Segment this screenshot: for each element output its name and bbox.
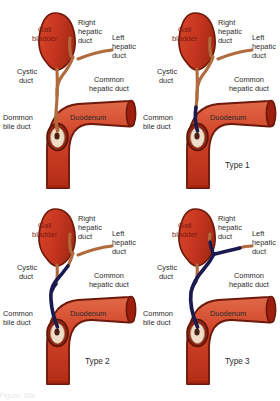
label-common-bile-duct: Commonbile duct [143, 309, 173, 327]
label-left-hepatic-duct: Lefthepaticduct [112, 229, 136, 256]
label-common-bile-duct: Dommonbile duct [3, 113, 33, 131]
duodenum-cut-end [266, 297, 275, 323]
figure-grid: Gallbladder Righthepaticduct Lefthepatic… [0, 0, 280, 401]
label-common-bile-duct: Commonbile duct [3, 309, 33, 327]
label-cystic-duct: Cysticduct [157, 67, 177, 85]
label-common-hepatic-duct: Commonhepatic duct [229, 75, 269, 93]
papilla-orifice [54, 328, 59, 335]
label-duodenum: Duodenum [70, 113, 106, 122]
label-duodenum: Duodenum [70, 309, 106, 318]
papilla-orifice [54, 132, 59, 139]
label-common-hepatic-duct: Commonhepatic duct [89, 75, 129, 93]
panel-type-1: Gallbladder Righthepaticduct Lefthepatic… [140, 0, 280, 196]
label-duodenum: Duodenum [210, 113, 246, 122]
common-bile-duct-tube [56, 112, 57, 131]
left-hepatic-duct-tube [78, 50, 112, 59]
label-left-hepatic-duct: Lefthepaticduct [252, 33, 276, 60]
duodenum-cut-end [126, 297, 135, 323]
label-right-hepatic-duct: Righthepaticduct [78, 18, 102, 45]
duodenum-lower-cut [47, 381, 69, 384]
label-common-bile-duct: Commonbile duct [143, 113, 173, 131]
duodenum-cut-end [266, 101, 275, 127]
label-common-hepatic-duct: Commonhepatic duct [229, 271, 269, 289]
label-left-hepatic-duct: Lefthepaticduct [252, 229, 276, 256]
right-hepatic-duct-tube [210, 38, 211, 56]
label-right-hepatic-duct: Righthepaticduct [218, 214, 242, 241]
papilla-orifice [194, 132, 199, 139]
label-cystic-duct: Cysticduct [17, 67, 37, 85]
left-hepatic-duct-tube [218, 50, 252, 59]
label-cystic-duct: Cysticduct [17, 263, 37, 281]
right-hepatic-duct-tube [70, 38, 71, 56]
label-cystic-duct: Cysticduct [157, 263, 177, 281]
label-type-caption: Type 1 [225, 161, 250, 170]
label-duodenum: Duodenum [210, 309, 246, 318]
label-left-hepatic-duct: Lefthepaticduct [112, 33, 136, 60]
duodenum-cut-end [126, 101, 135, 127]
duodenum-lower-cut [187, 185, 209, 188]
panel-type-3: Gallbladder Righthepaticduct Lefthepatic… [140, 196, 280, 392]
label-type-caption: Type 2 [85, 357, 110, 366]
duodenum-lower-cut [187, 381, 209, 384]
left-hepatic-duct-abnormal [215, 248, 240, 254]
duodenum-lower-cut [47, 185, 69, 188]
papilla-orifice [194, 328, 199, 335]
cystic-duct-abnormal-junction [192, 281, 196, 288]
panel-normal: Gallbladder Righthepaticduct Lefthepatic… [0, 0, 140, 196]
label-type-caption: Type 3 [225, 357, 250, 366]
right-hepatic-duct-tube [70, 234, 71, 252]
panel-type-2: Gallbladder Righthepaticduct Lefthepatic… [0, 196, 140, 392]
figure-bottom-caption: Figure. Bile [0, 392, 280, 401]
label-common-hepatic-duct: Commonhepatic duct [89, 271, 129, 289]
label-right-hepatic-duct: Righthepaticduct [78, 214, 102, 241]
left-hepatic-duct-tube [78, 246, 112, 255]
label-right-hepatic-duct: Righthepaticduct [218, 18, 242, 45]
